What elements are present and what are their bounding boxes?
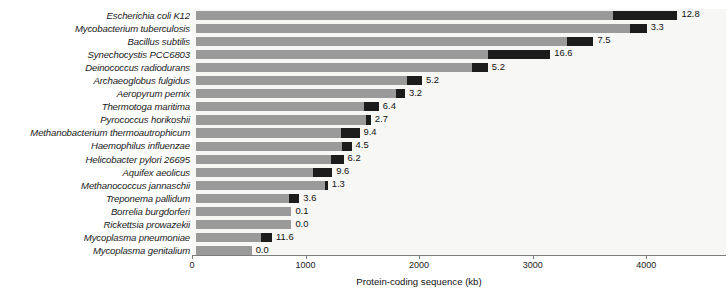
- bar-segment-black: [567, 37, 594, 46]
- bar-segment-black: [366, 115, 371, 124]
- bar-row: Bacillus subtilis7.5: [0, 35, 728, 48]
- x-axis-tick-label: 0: [189, 260, 194, 270]
- species-label: Synechocystis PCC6803: [0, 48, 190, 61]
- species-label: Deinococcus radiodurans: [0, 61, 190, 74]
- bar-track: [196, 168, 332, 177]
- bar-segment-gray: [196, 63, 488, 72]
- bar-value-label: 3.2: [409, 87, 422, 98]
- bar-segment-black: [364, 102, 379, 111]
- bar-track: [196, 11, 677, 20]
- species-label: Methanococcus jannaschii: [0, 179, 190, 192]
- species-label: Archaeoglobus fulgidus: [0, 74, 190, 87]
- bar-chart: Escherichia coli K1212.8Mycobacterium tu…: [0, 0, 728, 295]
- species-label: Bacillus subtilis: [0, 35, 190, 48]
- species-label: Mycobacterium tuberculosis: [0, 22, 190, 35]
- bar-segment-gray: [196, 115, 371, 124]
- bar-value-label: 12.8: [681, 8, 699, 19]
- species-label: Escherichia coli K12: [0, 9, 190, 22]
- bar-value-label: 0.0: [295, 218, 308, 229]
- bar-segment-gray: [196, 207, 291, 216]
- bar-row: Treponema pallidum3.6: [0, 192, 728, 205]
- bar-segment-gray: [196, 194, 299, 203]
- bar-segment-gray: [196, 24, 647, 33]
- bar-track: [196, 142, 352, 151]
- species-label: Aeropyrum pernix: [0, 87, 190, 100]
- bar-row: Archaeoglobus fulgidus5.2: [0, 74, 728, 87]
- bar-row: Synechocystis PCC680316.6: [0, 48, 728, 61]
- species-label: Treponema pallidum: [0, 192, 190, 205]
- species-label: Helicobacter pylori 26695: [0, 153, 190, 166]
- bar-track: [196, 50, 550, 59]
- bar-row: Pyrococcus horikoshii2.7: [0, 114, 728, 127]
- bar-row: Aquifex aeolicus9.6: [0, 166, 728, 179]
- bar-segment-gray: [196, 128, 360, 137]
- bar-segment-gray: [196, 89, 405, 98]
- bar-track: [196, 102, 379, 111]
- x-axis-tick-label: 2000: [409, 260, 429, 270]
- bar-segment-gray: [196, 155, 344, 164]
- bar-segment-gray: [196, 181, 328, 190]
- x-axis-title-text: Protein-coding sequence (kb): [356, 276, 481, 287]
- species-label: Rickettsia prowazekii: [0, 218, 190, 231]
- x-axis-tick-label: 3000: [523, 260, 543, 270]
- bar-track: [196, 207, 291, 216]
- bar-segment-black: [407, 76, 422, 85]
- bar-row: Deinococcus radiodurans5.2: [0, 61, 728, 74]
- bar-row: Methanobacterium thermoautrophicum9.4: [0, 127, 728, 140]
- bar-segment-gray: [196, 220, 291, 229]
- bar-row: Thermotoga maritima6.4: [0, 101, 728, 114]
- x-axis-title: Protein-coding sequence (kb): [0, 276, 728, 287]
- bar-segment-black: [488, 50, 550, 59]
- bar-segment-gray: [196, 102, 379, 111]
- bar-segment-black: [325, 181, 328, 190]
- bar-segment-black: [331, 155, 344, 164]
- bar-row: Methanococcus jannaschii1.3: [0, 179, 728, 192]
- species-label: Methanobacterium thermoautrophicum: [0, 126, 190, 139]
- bar-value-label: 3.3: [651, 21, 664, 32]
- species-label: Aquifex aeolicus: [0, 166, 190, 179]
- bar-segment-black: [341, 128, 359, 137]
- bar-segment-black: [472, 63, 488, 72]
- species-label: Mycoplasma pneumoniae: [0, 231, 190, 244]
- bar-value-label: 6.2: [348, 152, 361, 163]
- bar-value-label: 6.4: [383, 100, 396, 111]
- bar-segment-black: [313, 168, 332, 177]
- bar-value-label: 5.2: [426, 74, 439, 85]
- bar-track: [196, 37, 593, 46]
- bar-value-label: 0.1: [295, 205, 308, 216]
- bar-segment-gray: [196, 37, 593, 46]
- bar-value-label: 7.5: [597, 34, 610, 45]
- bar-segment-gray: [196, 168, 332, 177]
- bar-segment-gray: [196, 142, 352, 151]
- bar-track: [196, 76, 422, 85]
- bar-segment-black: [396, 89, 405, 98]
- bar-track: [196, 89, 405, 98]
- bar-value-label: 3.6: [303, 192, 316, 203]
- bar-track: [196, 155, 344, 164]
- bar-row: Haemophilus influenzae4.5: [0, 140, 728, 153]
- bar-value-label: 1.3: [332, 178, 345, 189]
- bar-value-label: 5.2: [492, 61, 505, 72]
- bar-row: Borrelia burgdorferi0.1: [0, 205, 728, 218]
- bar-row: Mycoplasma pneumoniae11.6: [0, 232, 728, 245]
- species-label: Pyrococcus horikoshii: [0, 113, 190, 126]
- bar-value-label: 16.6: [554, 47, 572, 58]
- bar-segment-black: [261, 233, 272, 242]
- bar-track: [196, 24, 647, 33]
- bar-row: Rickettsia prowazekii0.0: [0, 219, 728, 232]
- bar-track: [196, 233, 272, 242]
- x-axis-tick: [306, 255, 307, 259]
- species-label: Thermotoga maritima: [0, 100, 190, 113]
- bar-track: [196, 220, 291, 229]
- species-label: Haemophilus influenzae: [0, 139, 190, 152]
- bar-rows-container: Escherichia coli K1212.8Mycobacterium tu…: [0, 9, 728, 258]
- bar-segment-gray: [196, 11, 677, 20]
- bar-segment-gray: [196, 76, 422, 85]
- bar-row: Helicobacter pylori 266956.2: [0, 153, 728, 166]
- bar-value-label: 11.6: [276, 231, 294, 242]
- x-axis-tick: [646, 255, 647, 259]
- bar-value-label: 0.0: [256, 244, 269, 255]
- x-axis-tick: [419, 255, 420, 259]
- bar-value-label: 4.5: [356, 139, 369, 150]
- bar-track: [196, 115, 371, 124]
